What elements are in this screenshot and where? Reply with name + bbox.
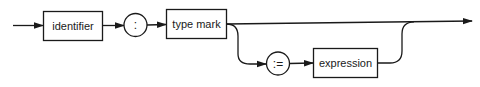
- syntax-diagram: identifier : type mark := expression: [0, 0, 480, 87]
- expression-node: expression: [314, 49, 378, 78]
- colon-label: :: [134, 18, 137, 32]
- colon-terminal: :: [124, 14, 147, 37]
- return-branch-path: [378, 22, 415, 63]
- arrow-assign-to-expression: [290, 63, 314, 64]
- type-mark-node: type mark: [167, 10, 227, 39]
- expression-label: expression: [319, 57, 372, 69]
- assign-terminal: :=: [267, 52, 290, 75]
- identifier-node: identifier: [44, 12, 103, 41]
- optional-branch-path: [227, 24, 267, 64]
- exit-arrow: [227, 21, 473, 24]
- type-mark-label: type mark: [172, 18, 221, 30]
- identifier-label: identifier: [52, 20, 94, 32]
- assign-label: :=: [273, 57, 283, 71]
- arrow-colon-to-type-mark: [147, 25, 166, 26]
